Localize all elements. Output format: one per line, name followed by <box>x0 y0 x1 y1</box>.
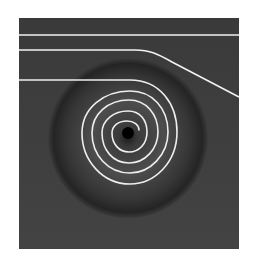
simulation-figure <box>0 0 255 266</box>
black-hole <box>122 127 134 139</box>
